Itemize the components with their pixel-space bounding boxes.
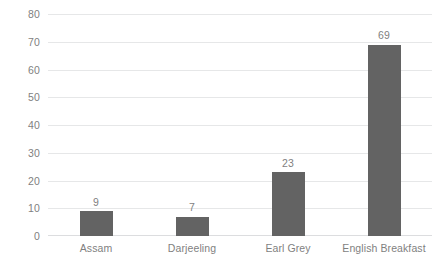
y-tick-label: 50	[0, 92, 40, 103]
bar-value-label: 9	[48, 197, 144, 208]
y-tick-label: 10	[0, 203, 40, 214]
x-axis-labels: Assam Darjeeling Earl Grey English Break…	[48, 243, 432, 254]
y-tick-label: 30	[0, 148, 40, 159]
y-tick-label: 80	[0, 9, 40, 20]
y-tick-label: 40	[0, 120, 40, 131]
x-label-english-breakfast: English Breakfast	[336, 243, 432, 254]
bar-chart: 80 70 60 50 40 30 20 10 0 9	[0, 0, 446, 270]
bar-series: 9 7 23 69	[48, 14, 432, 236]
x-label-darjeeling: Darjeeling	[144, 243, 240, 254]
x-label-assam: Assam	[48, 243, 144, 254]
bar-group-earl-grey: 23	[240, 14, 336, 236]
bar-value-label: 7	[144, 202, 240, 213]
bar-earl-grey[interactable]	[272, 172, 305, 236]
bar-assam[interactable]	[80, 211, 113, 236]
y-tick-label: 0	[0, 231, 40, 242]
bar-darjeeling[interactable]	[176, 217, 209, 236]
y-tick-label: 70	[0, 37, 40, 48]
bar-english-breakfast[interactable]	[368, 45, 401, 236]
plot-area: 9 7 23 69	[48, 14, 432, 236]
bar-value-label: 69	[336, 30, 432, 41]
y-tick-label: 20	[0, 176, 40, 187]
bar-group-darjeeling: 7	[144, 14, 240, 236]
x-label-earl-grey: Earl Grey	[240, 243, 336, 254]
bar-group-assam: 9	[48, 14, 144, 236]
bar-group-english-breakfast: 69	[336, 14, 432, 236]
bar-value-label: 23	[240, 158, 336, 169]
y-tick-label: 60	[0, 65, 40, 76]
